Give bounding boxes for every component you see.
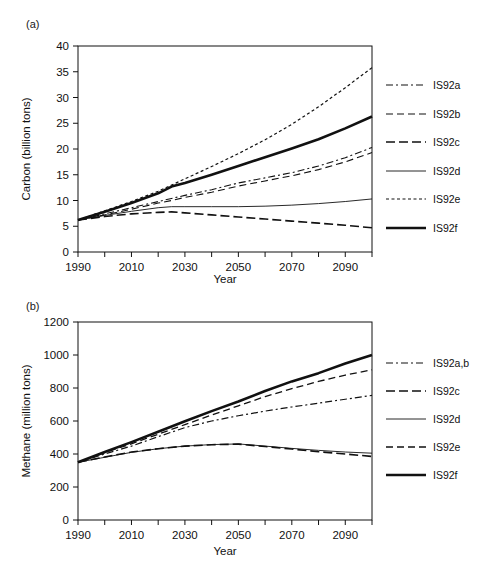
x-tick-label: 2030	[172, 529, 198, 541]
legend-item-IS92f[interactable]: IS92f	[386, 468, 458, 482]
series-line-IS92c	[78, 212, 372, 228]
legend-item-IS92ab[interactable]: IS92a,b	[386, 356, 469, 370]
legend-swatch-IS92d-icon	[386, 413, 426, 425]
legend-label: IS92a,b	[433, 357, 469, 369]
legend-swatch-IS92c-icon	[386, 136, 426, 148]
legend-item-IS92e[interactable]: IS92e	[386, 440, 460, 454]
legend-label: IS92f	[433, 222, 458, 234]
series-line-IS92e	[78, 68, 372, 220]
legend-swatch-IS92ab-icon	[386, 357, 426, 369]
x-axis-title: Year	[213, 273, 236, 285]
x-tick-label: 2010	[119, 529, 145, 541]
y-tick-label: 5	[63, 220, 69, 232]
legend-label: IS92c	[433, 385, 460, 397]
x-tick-label: 2090	[332, 261, 358, 273]
legend-item-IS92b[interactable]: IS92b	[386, 107, 460, 121]
legend-item-IS92c[interactable]: IS92c	[386, 384, 460, 398]
y-tick-label: 0	[63, 514, 69, 526]
legend-item-IS92f[interactable]: IS92f	[386, 221, 458, 235]
x-tick-label: 2090	[332, 529, 358, 541]
y-tick-label: 1000	[43, 349, 69, 361]
y-tick-label: 20	[56, 143, 69, 155]
x-axis-title: Year	[213, 545, 236, 557]
y-tick-label: 800	[50, 382, 69, 394]
y-tick-label: 15	[56, 169, 69, 181]
y-tick-label: 200	[50, 481, 69, 493]
legend-label: IS92c	[433, 136, 460, 148]
legend-item-IS92d[interactable]: IS92d	[386, 164, 460, 178]
x-tick-label: 2010	[119, 261, 145, 273]
x-tick-label: 2030	[172, 261, 198, 273]
legend-swatch-IS92e-icon	[386, 441, 426, 453]
legend-swatch-IS92f-icon	[386, 222, 426, 234]
y-tick-label: 25	[56, 117, 69, 129]
x-tick-label: 1990	[65, 261, 91, 273]
legend-item-IS92e[interactable]: IS92e	[386, 192, 460, 206]
legend-label: IS92a	[433, 79, 460, 91]
x-tick-label: 2070	[279, 261, 305, 273]
legend-label: IS92d	[433, 165, 460, 177]
y-tick-label: 30	[56, 92, 69, 104]
legend-item-IS92d[interactable]: IS92d	[386, 412, 460, 426]
legend-swatch-IS92f-icon	[386, 469, 426, 481]
y-tick-label: 10	[56, 195, 69, 207]
x-tick-label: 1990	[65, 529, 91, 541]
series-line-IS92a	[78, 147, 372, 220]
y-tick-label: 600	[50, 415, 69, 427]
legend-swatch-IS92d-icon	[386, 165, 426, 177]
y-axis-title: Methane (million tons)	[20, 364, 32, 477]
legend-label: IS92b	[433, 108, 460, 120]
legend-label: IS92d	[433, 413, 460, 425]
y-tick-label: 40	[56, 40, 69, 52]
panel-a: (a) 051015202530354019902010203020502070…	[0, 0, 485, 290]
y-axis-title: Carbon (billion tons)	[20, 97, 32, 200]
y-tick-label: 400	[50, 448, 69, 460]
legend-swatch-IS92a-icon	[386, 79, 426, 91]
legend-label: IS92e	[433, 441, 460, 453]
y-tick-label: 0	[63, 246, 69, 258]
legend-item-IS92a[interactable]: IS92a	[386, 78, 460, 92]
x-tick-label: 2070	[279, 529, 305, 541]
panel-b: (b) 020040060080010001200199020102030205…	[0, 290, 485, 580]
legend-label: IS92f	[433, 469, 458, 481]
x-tick-label: 2050	[226, 261, 252, 273]
figure-container: (a) 051015202530354019902010203020502070…	[0, 0, 485, 580]
legend-item-IS92c[interactable]: IS92c	[386, 135, 460, 149]
series-line-IS92f	[78, 355, 372, 462]
legend-swatch-IS92e-icon	[386, 193, 426, 205]
legend-swatch-IS92b-icon	[386, 108, 426, 120]
legend-swatch-IS92c-icon	[386, 385, 426, 397]
legend-label: IS92e	[433, 193, 460, 205]
y-tick-label: 35	[56, 66, 69, 78]
x-tick-label: 2050	[226, 529, 252, 541]
panel-b-plot: 0200400600800100012001990201020302050207…	[0, 290, 485, 580]
y-tick-label: 1200	[43, 316, 69, 328]
